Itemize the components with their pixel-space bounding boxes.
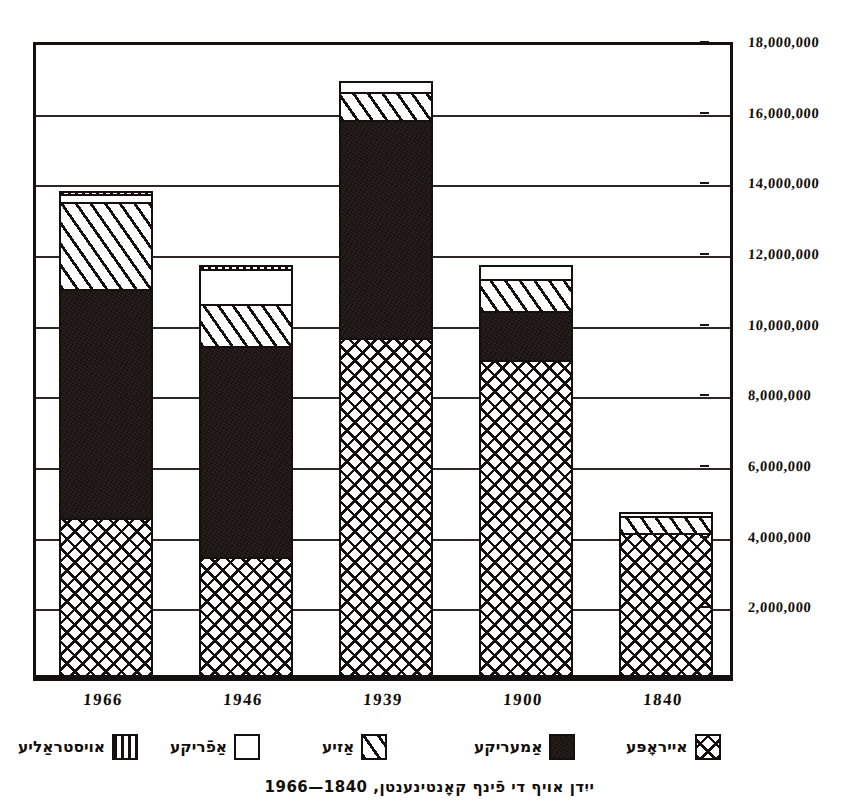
bar-segment-asia	[61, 204, 151, 292]
bar-segment-europe	[481, 362, 571, 675]
bar-segment-australia	[201, 267, 291, 271]
bar-segment-australia	[61, 193, 151, 197]
legend-item-australia[interactable]: אויסטראַליע	[18, 731, 158, 763]
x-axis-label-1966: 1966	[42, 690, 163, 710]
legend-swatch-vertical-stripes-icon	[112, 734, 138, 760]
x-axis-label-1939: 1939	[322, 690, 443, 710]
legend-label-africa: אַפֿריקע	[170, 738, 227, 756]
y-axis-tick	[700, 324, 709, 326]
x-axis-line	[33, 676, 733, 681]
chart-figure: 18,000,00016,000,00014,000,00012,000,000…	[0, 0, 859, 812]
bar-segment-africa	[201, 271, 291, 306]
y-axis-tick	[700, 112, 709, 114]
legend-swatch-diagonal-hatch-icon	[361, 734, 387, 760]
x-axis-label-1900: 1900	[462, 690, 583, 710]
bar-segment-asia	[201, 306, 291, 348]
bar-1966[interactable]	[59, 191, 153, 675]
legend-item-africa[interactable]: אַפֿריקע	[170, 731, 310, 763]
legend-label-europe: אייראָפּע	[626, 738, 688, 756]
legend-label-australia: אויסטראַליע	[18, 738, 105, 756]
x-axis-label-1946: 1946	[182, 690, 303, 710]
bar-1939[interactable]	[339, 81, 433, 675]
legend-label-america: אַמעריקע	[474, 738, 542, 756]
chart-legend: אויסטראַליעאַפֿריקעאַזיעאַמעריקעאייראָפּ…	[18, 731, 778, 765]
bar-1840[interactable]	[619, 512, 713, 675]
plot-area	[33, 42, 733, 678]
bar-segment-africa	[621, 514, 711, 518]
y-axis-label: 14,000,000	[748, 175, 820, 192]
y-axis-label: 4,000,000	[748, 528, 812, 545]
chart-caption: ייִדן אויף די פֿינף קאָנטינענטן, 1840—19…	[0, 778, 859, 796]
bar-1946[interactable]	[199, 265, 293, 675]
legend-swatch-empty-white-icon	[234, 734, 260, 760]
bar-segment-america	[341, 122, 431, 340]
legend-label-asia: אַזיע	[322, 738, 354, 756]
legend-swatch-solid-black-icon	[549, 734, 575, 760]
bar-1900[interactable]	[479, 265, 573, 675]
y-axis-tick	[700, 253, 709, 255]
y-axis-label: 2,000,000	[748, 599, 812, 616]
y-axis-tick	[700, 536, 709, 538]
bar-segment-africa	[481, 267, 571, 281]
bar-segment-asia	[481, 281, 571, 313]
y-axis-label: 6,000,000	[748, 458, 812, 475]
legend-item-europe[interactable]: אייראָפּע	[626, 731, 766, 763]
legend-item-asia[interactable]: אַזיע	[322, 731, 462, 763]
y-axis-tick	[700, 606, 709, 608]
y-axis-label: 8,000,000	[748, 387, 812, 404]
y-axis-tick	[700, 465, 709, 467]
bar-segment-europe	[621, 535, 711, 675]
bar-segment-america	[481, 313, 571, 362]
legend-item-america[interactable]: אַמעריקע	[474, 731, 614, 763]
bar-segment-africa	[61, 196, 151, 203]
x-axis-label-1840: 1840	[602, 690, 723, 710]
y-axis-tick	[700, 394, 709, 396]
bar-segment-africa	[341, 83, 431, 94]
y-axis-label: 10,000,000	[748, 316, 820, 333]
y-axis-tick	[700, 41, 709, 43]
bar-segment-europe	[201, 559, 291, 675]
y-axis-label: 18,000,000	[748, 34, 820, 51]
bar-segment-america	[61, 291, 151, 520]
y-axis-label: 12,000,000	[748, 246, 820, 263]
bar-segment-america	[201, 348, 291, 559]
bar-segment-europe	[61, 520, 151, 675]
legend-swatch-cross-hatch-icon	[695, 734, 721, 760]
y-axis-tick	[700, 182, 709, 184]
bar-segment-europe	[341, 340, 431, 675]
y-axis-label: 16,000,000	[748, 104, 820, 121]
bar-segment-asia	[341, 94, 431, 122]
bar-segment-asia	[621, 518, 711, 535]
